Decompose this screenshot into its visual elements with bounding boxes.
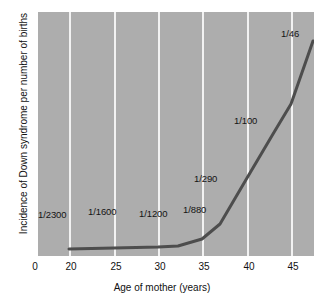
x-tick-0: 0 [32,261,38,272]
x-tick-35: 35 [198,261,209,272]
downs-syndrome-incidence-chart: Incidence of Down syndrome per number of… [0,0,324,301]
data-label-1-1600: 1/1600 [88,207,116,217]
data-label-1-290: 1/290 [194,174,217,184]
x-tick-45: 45 [287,261,298,272]
data-label-1-46: 1/46 [281,29,299,39]
data-label-1-1200: 1/1200 [139,209,167,219]
incidence-line-series [38,12,314,256]
data-label-1-2300: 1/2300 [38,210,66,220]
plot-area: 1/2300 1/1600 1/1200 1/880 1/290 1/100 1… [38,12,314,256]
x-axis-title: Age of mother (years) [0,282,324,293]
x-tick-25: 25 [110,261,121,272]
data-label-1-100: 1/100 [234,116,257,126]
data-label-1-880: 1/880 [183,205,206,215]
x-tick-20: 20 [65,261,76,272]
y-axis-title-container: Incidence of Down syndrome per number of… [0,0,20,260]
x-tick-40: 40 [243,261,254,272]
x-tick-30: 30 [154,261,165,272]
y-axis-title: Incidence of Down syndrome per number of… [18,9,29,239]
